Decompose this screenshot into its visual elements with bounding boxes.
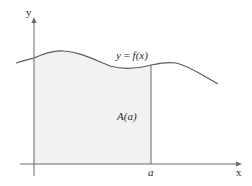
curve-label-rhs: f(x) (133, 49, 149, 62)
y-axis-arrow-icon (32, 17, 37, 23)
x-axis-label: x (236, 166, 242, 178)
curve-label: y = f(x) (115, 49, 148, 62)
area-under-curve-diagram: y x y = f(x) A(a) a (0, 0, 252, 186)
bound-label-a: a (148, 166, 154, 178)
curve-label-eq: = (121, 49, 133, 61)
y-axis-label: y (26, 6, 32, 18)
area-label: A(a) (116, 110, 137, 123)
